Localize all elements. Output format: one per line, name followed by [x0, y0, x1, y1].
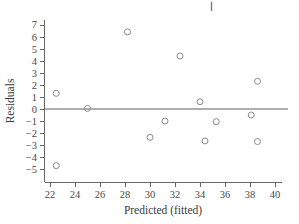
x-axis-title: Predicted (fitted): [124, 204, 202, 217]
data-point: [255, 139, 261, 145]
y-tick-label: 0: [32, 104, 37, 115]
data-point: [202, 138, 208, 144]
x-tick-label: 38: [245, 189, 256, 200]
data-point: [85, 105, 91, 111]
y-tick-label: −4: [26, 152, 38, 163]
x-tick-label: 32: [170, 189, 181, 200]
data-point: [248, 112, 254, 118]
y-tick-label: 5: [32, 44, 37, 55]
data-point-group: [53, 29, 260, 169]
y-tick-label: 2: [32, 80, 37, 91]
y-axis-ticks: [40, 25, 45, 170]
y-tick-label: 3: [32, 68, 37, 79]
x-tick-label: 40: [270, 189, 281, 200]
x-tick-label: 22: [45, 189, 56, 200]
x-tick-label: 24: [70, 189, 81, 200]
data-point: [177, 53, 183, 59]
x-axis-tick-labels: 22242628303234363840: [45, 189, 281, 200]
x-tick-label: 28: [120, 189, 131, 200]
y-tick-label: 4: [32, 56, 38, 67]
y-tick-label: −2: [26, 128, 37, 139]
y-tick-label: 7: [32, 19, 37, 30]
data-point: [125, 29, 131, 35]
y-axis-title: Residuals: [4, 78, 16, 123]
x-tick-label: 30: [145, 189, 156, 200]
data-point: [197, 99, 203, 105]
data-point: [53, 163, 59, 169]
data-point: [147, 134, 153, 140]
x-tick-label: 34: [195, 189, 206, 200]
y-tick-label: −3: [26, 140, 37, 151]
data-point: [162, 118, 168, 124]
x-axis-ticks: [51, 183, 276, 188]
y-tick-label: −5: [26, 164, 37, 175]
y-axis-tick-labels: −5−4−3−2−101234567: [26, 19, 38, 175]
y-tick-label: 6: [32, 32, 37, 43]
scatter-plot-canvas: −5−4−3−2−101234567 22242628303234363840 …: [0, 0, 299, 224]
data-point: [255, 78, 261, 84]
y-tick-label: −1: [26, 116, 37, 127]
data-point: [53, 90, 59, 96]
data-point: [213, 119, 219, 125]
y-tick-label: 1: [32, 92, 37, 103]
x-tick-label: 26: [95, 189, 106, 200]
residual-plot-figure: −5−4−3−2−101234567 22242628303234363840 …: [0, 0, 299, 224]
x-tick-label: 36: [220, 189, 231, 200]
